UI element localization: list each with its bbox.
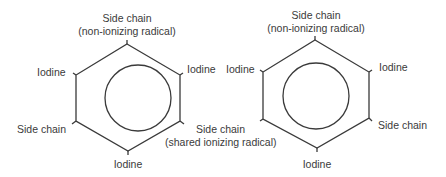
left-top-label-line2: (non-ionizing radical) xyxy=(78,25,175,37)
left-bond-lower-right xyxy=(180,121,184,124)
iodinated-ring-diagram: Side chain (non-ionizing radical) Iodine… xyxy=(0,0,446,177)
left-lower-right-label-line2: (shared ionizing radical) xyxy=(165,136,276,148)
left-bottom-label: Iodine xyxy=(114,158,143,170)
left-bond-lower-left xyxy=(72,121,76,124)
right-hexagon xyxy=(263,40,369,148)
right-lower-right-label: Side chain xyxy=(378,119,427,131)
right-top-label-line1: Side chain xyxy=(291,9,340,21)
left-upper-left-label: Iodine xyxy=(37,66,66,78)
left-bond-upper-left xyxy=(73,73,76,75)
right-bond-lower-left xyxy=(260,119,263,121)
right-upper-left-label: Iodine xyxy=(226,63,255,75)
right-bond-upper-left xyxy=(260,70,263,72)
right-aromatic-circle xyxy=(283,63,349,129)
right-bond-lower-right xyxy=(369,118,372,121)
right-upper-right-label: Iodine xyxy=(379,61,408,73)
left-lower-right-label-line1: Side chain xyxy=(196,123,245,135)
right-benzene-ring xyxy=(260,36,372,152)
right-top-label-line2: (non-ionizing radical) xyxy=(267,22,364,34)
left-hexagon xyxy=(76,44,180,151)
left-upper-right-label: Iodine xyxy=(187,63,216,75)
left-lower-left-label: Side chain xyxy=(17,123,66,135)
right-bond-upper-right xyxy=(369,70,372,72)
left-aromatic-circle xyxy=(105,65,171,131)
ring-structures-graphic xyxy=(0,0,446,177)
left-bond-upper-right xyxy=(180,73,183,75)
left-top-label-line1: Side chain xyxy=(102,12,151,24)
right-bottom-label: Iodine xyxy=(303,158,332,170)
